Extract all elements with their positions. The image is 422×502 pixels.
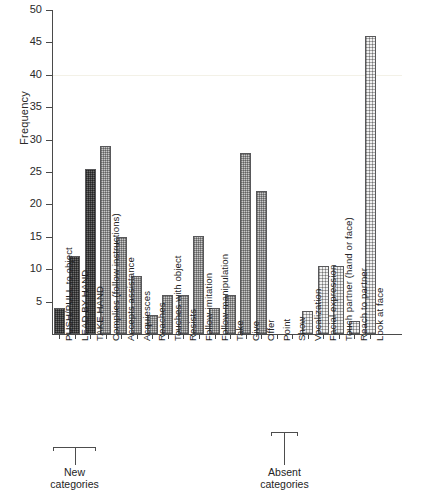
bracket-tip-right <box>95 447 96 451</box>
y-tick-label: 30 <box>16 133 42 145</box>
category-label: PUSH/PULL to object <box>63 247 74 341</box>
x-tick <box>230 334 231 339</box>
category-label: Acquiesces <box>141 291 152 341</box>
category-label: Facial expression <box>327 265 338 341</box>
category-label: Look at face <box>374 288 385 341</box>
bar <box>240 153 251 334</box>
y-tick-label: 25 <box>16 165 42 177</box>
category-label: Give <box>250 321 261 341</box>
bracket-tip-right <box>297 432 298 436</box>
category-label: Take <box>234 320 245 341</box>
category-label: LEAD BY HAND <box>79 270 90 341</box>
x-tick <box>246 334 247 339</box>
category-label: Accepts assistance <box>125 257 136 341</box>
x-tick <box>308 334 309 339</box>
group-label-absent-categories: Absent categories <box>239 466 329 490</box>
category-label: Reaches <box>156 302 167 341</box>
category-label: Follow-imitation <box>203 273 214 341</box>
x-tick <box>323 334 324 339</box>
y-tick-label: 20 <box>16 197 42 209</box>
bracket-tip-left <box>53 447 54 451</box>
category-label: Reach to partner <box>358 268 369 341</box>
x-tick <box>106 334 107 339</box>
y-tick-label: 5 <box>16 295 42 307</box>
x-tick <box>137 334 138 339</box>
bracket-stem <box>75 447 76 465</box>
group-label-line2: categories <box>30 478 120 490</box>
bar-chart: Frequency 5101520253035404550 PUSH/PULL … <box>0 0 422 502</box>
x-tick <box>183 334 184 339</box>
x-tick <box>277 334 278 339</box>
x-tick <box>75 334 76 339</box>
x-tick <box>261 334 262 339</box>
category-label: TAKE HAND <box>94 286 105 341</box>
bracket-stem <box>284 432 285 465</box>
y-axis-title: Frequency <box>18 68 30 168</box>
x-tick <box>152 334 153 339</box>
category-label: Offer <box>265 319 276 341</box>
x-tick <box>370 334 371 339</box>
y-tick-label: 15 <box>16 230 42 242</box>
group-label-line1: Absent <box>239 466 329 478</box>
y-tick-label: 45 <box>16 35 42 47</box>
x-tick <box>292 334 293 339</box>
category-label: Point <box>281 319 292 341</box>
x-tick <box>339 334 340 339</box>
y-tick-label: 50 <box>16 3 42 15</box>
x-tick <box>121 334 122 339</box>
category-label: Touch partner (hand or face) <box>343 217 354 341</box>
group-label-new-categories: New categories <box>30 466 120 490</box>
x-tick <box>59 334 60 339</box>
bar <box>256 191 267 334</box>
x-tick <box>354 334 355 339</box>
category-label: Resists <box>187 309 198 341</box>
y-tick-label: 40 <box>16 68 42 80</box>
category-label: Touches with object <box>172 255 183 341</box>
x-tick <box>168 334 169 339</box>
group-label-line2: categories <box>239 478 329 490</box>
bracket-tip-left <box>271 432 272 436</box>
category-label: Vocalization <box>312 289 323 341</box>
y-tick-label: 10 <box>16 262 42 274</box>
category-label: Show <box>296 317 307 341</box>
category-label: Follow-manipulation <box>219 254 230 341</box>
x-tick <box>215 334 216 339</box>
group-label-line1: New <box>30 466 120 478</box>
x-tick <box>199 334 200 339</box>
y-tick-label: 35 <box>16 100 42 112</box>
x-tick <box>90 334 91 339</box>
category-label: Complies (follow instructions) <box>110 213 121 341</box>
